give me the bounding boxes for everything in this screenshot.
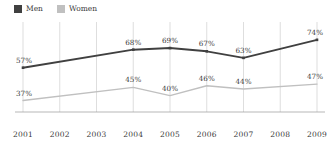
data-label-men-2001: 57% <box>16 56 32 65</box>
chart-legend: Men Women <box>14 3 97 15</box>
line-chart: Men Women 57%68%69%67%63%74%37%45%40%46%… <box>0 0 335 151</box>
x-tick-label-2009: 2009 <box>307 130 327 140</box>
marker-men-2001 <box>22 66 25 69</box>
x-tick-label-2004: 2004 <box>123 130 143 140</box>
legend-item-women[interactable]: Women <box>57 5 97 13</box>
marker-men-2004 <box>132 48 135 51</box>
marker-men-2005 <box>169 47 172 50</box>
plot-area: 57%68%69%67%63%74%37%45%40%46%44%47% <box>0 16 335 126</box>
x-tick-label-2007: 2007 <box>234 130 254 140</box>
legend-label-men: Men <box>26 5 43 13</box>
legend-swatch-women <box>57 5 65 13</box>
x-axis-labels: 200120022003200420052006200720082009 <box>0 130 335 144</box>
legend-label-women: Women <box>69 5 97 13</box>
data-label-men-2005: 69% <box>162 36 178 45</box>
data-label-women-2005: 40% <box>162 84 178 93</box>
x-tick-label-2003: 2003 <box>87 130 107 140</box>
data-label-women-2004: 45% <box>125 75 141 84</box>
data-label-women-2007: 44% <box>236 77 252 86</box>
x-tick-label-2006: 2006 <box>197 130 217 140</box>
marker-men-2009 <box>316 39 319 42</box>
data-label-men-2007: 63% <box>236 46 252 55</box>
marker-men-2007 <box>242 57 245 60</box>
marker-men-2006 <box>205 50 208 53</box>
plot-svg: 57%68%69%67%63%74%37%45%40%46%44%47% <box>0 16 335 126</box>
x-tick-label-2008: 2008 <box>270 130 290 140</box>
x-tick-label-2001: 2001 <box>13 130 33 140</box>
x-tick-label-2002: 2002 <box>50 130 70 140</box>
data-label-men-2009: 74% <box>307 28 323 37</box>
legend-item-men[interactable]: Men <box>14 5 43 13</box>
data-label-women-2001: 37% <box>16 89 32 98</box>
data-label-men-2006: 67% <box>199 39 215 48</box>
data-label-women-2006: 46% <box>199 74 215 83</box>
legend-swatch-men <box>14 5 22 13</box>
data-label-women-2009: 47% <box>307 72 323 81</box>
data-label-men-2004: 68% <box>125 38 141 47</box>
x-tick-label-2005: 2005 <box>160 130 180 140</box>
